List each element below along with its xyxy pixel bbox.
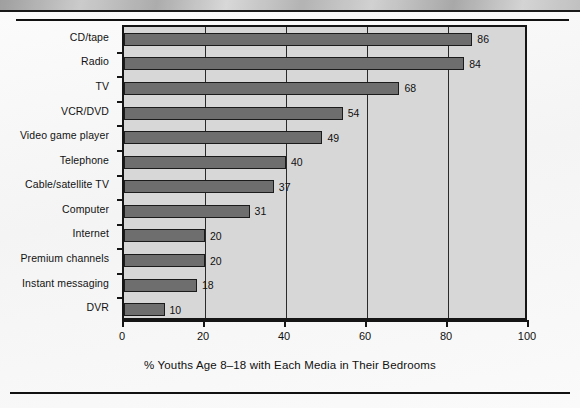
- bar-row: 20: [124, 254, 525, 267]
- bar-row: 37: [124, 180, 525, 193]
- x-axis-tick-label: 20: [197, 330, 209, 342]
- x-axis-tick-label: 100: [518, 330, 536, 342]
- bar: [124, 57, 464, 70]
- bar: [124, 279, 197, 292]
- category-tick: [117, 297, 124, 299]
- x-axis-title: % Youths Age 8–18 with Each Media in The…: [0, 359, 580, 372]
- category-tick: [117, 175, 124, 177]
- category-label: CD/tape: [0, 32, 116, 43]
- x-axis-tick: [284, 320, 286, 327]
- bar: [124, 303, 165, 316]
- x-axis: 020406080100: [122, 320, 527, 330]
- bar: [124, 205, 250, 218]
- scan-artifact-band: [0, 0, 580, 12]
- bar-value-label: 10: [165, 304, 182, 315]
- bar-row: 31: [124, 205, 525, 218]
- category-label: Instant messaging: [0, 278, 116, 289]
- plot-area: 868468544940373120201810: [122, 25, 527, 320]
- bar: [124, 229, 205, 242]
- category-tick: [117, 150, 124, 152]
- category-label: Internet: [0, 228, 116, 239]
- bar-row: 68: [124, 82, 525, 95]
- bar-row: 20: [124, 229, 525, 242]
- bar-row: 84: [124, 57, 525, 70]
- bar-row: 49: [124, 131, 525, 144]
- bar: [124, 180, 274, 193]
- gridline: [205, 27, 206, 318]
- bottom-horizontal-rule: [10, 392, 570, 394]
- bar-value-label: 68: [399, 83, 416, 94]
- x-axis-tick-label: 60: [359, 330, 371, 342]
- category-tick: [117, 76, 124, 78]
- x-axis-tick-label: 40: [278, 330, 290, 342]
- category-label: Computer: [0, 204, 116, 215]
- x-axis-tick: [122, 320, 124, 327]
- gridline: [448, 27, 449, 318]
- x-axis-tick-label: 80: [440, 330, 452, 342]
- bar-value-label: 84: [464, 58, 481, 69]
- bar-chart-figure: CD/tapeRadioTVVCR/DVDVideo game playerTe…: [0, 12, 580, 392]
- category-label: Cable/satellite TV: [0, 179, 116, 190]
- category-label: DVR: [0, 302, 116, 313]
- category-axis: CD/tapeRadioTVVCR/DVDVideo game playerTe…: [0, 25, 116, 320]
- bar-row: 10: [124, 303, 525, 316]
- category-tick: [117, 101, 124, 103]
- x-axis-tick: [446, 320, 448, 327]
- bar-row: 86: [124, 33, 525, 46]
- gridline: [367, 27, 368, 318]
- category-tick: [117, 125, 124, 127]
- gridline: [286, 27, 287, 318]
- x-axis-tick: [365, 320, 367, 327]
- category-label: Premium channels: [0, 253, 116, 264]
- bar: [124, 131, 322, 144]
- bar-row: 18: [124, 279, 525, 292]
- category-label: Radio: [0, 56, 116, 67]
- bar-value-label: 54: [343, 108, 360, 119]
- bar-value-label: 37: [274, 181, 291, 192]
- bar-value-label: 20: [205, 255, 222, 266]
- bar: [124, 107, 343, 120]
- category-tick: [117, 52, 124, 54]
- bar: [124, 254, 205, 267]
- x-axis-tick: [203, 320, 205, 327]
- bar-value-label: 86: [472, 34, 489, 45]
- bar: [124, 156, 286, 169]
- category-label: TV: [0, 81, 116, 92]
- bar-value-label: 31: [250, 206, 267, 217]
- bar-value-label: 49: [322, 132, 339, 143]
- x-axis-line: [122, 320, 527, 322]
- bar-value-label: 20: [205, 230, 222, 241]
- bar-value-label: 18: [197, 280, 214, 291]
- category-tick: [117, 224, 124, 226]
- category-tick: [117, 199, 124, 201]
- category-label: VCR/DVD: [0, 106, 116, 117]
- bar-row: 40: [124, 156, 525, 169]
- bar: [124, 33, 472, 46]
- bar-row: 54: [124, 107, 525, 120]
- bar: [124, 82, 399, 95]
- x-axis-tick: [527, 320, 529, 327]
- category-label: Video game player: [0, 130, 116, 141]
- x-axis-tick-label: 0: [119, 330, 125, 342]
- category-tick: [117, 273, 124, 275]
- category-tick: [117, 248, 124, 250]
- category-label: Telephone: [0, 155, 116, 166]
- bar-value-label: 40: [286, 157, 303, 168]
